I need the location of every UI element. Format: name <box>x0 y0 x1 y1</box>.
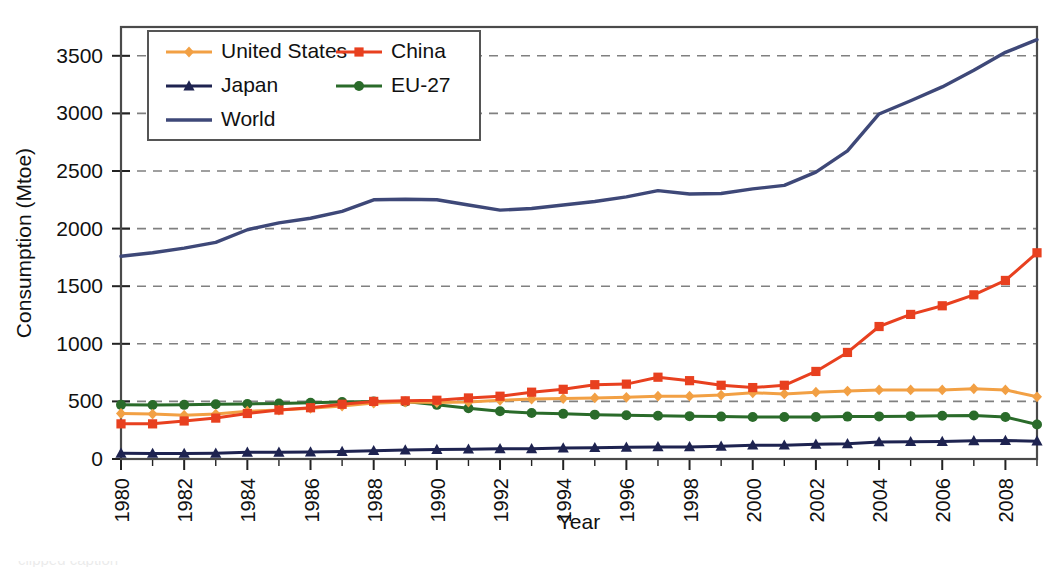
x-tick-label: 1996 <box>616 478 638 523</box>
data-marker <box>211 399 221 409</box>
data-marker <box>559 385 568 394</box>
x-tick-label: 1990 <box>427 478 449 523</box>
data-marker <box>716 412 726 422</box>
data-marker <box>874 411 884 421</box>
data-marker <box>937 411 947 421</box>
y-tick-label: 2500 <box>56 159 103 182</box>
y-tick-label: 1500 <box>56 274 103 297</box>
data-marker <box>779 412 789 422</box>
data-marker <box>653 373 662 382</box>
data-marker <box>811 367 820 376</box>
data-marker <box>338 400 347 409</box>
data-marker <box>653 411 663 421</box>
data-marker <box>843 348 852 357</box>
y-tick-label: 3500 <box>56 44 103 67</box>
data-marker <box>1001 276 1010 285</box>
legend-label: China <box>391 39 446 62</box>
chart-legend: United StatesChinaJapanEU-27World <box>148 31 480 140</box>
y-tick-label: 0 <box>91 447 103 470</box>
legend-label: EU-27 <box>391 73 451 96</box>
data-marker <box>369 397 378 406</box>
data-marker <box>1032 248 1041 257</box>
x-axis-title: Year <box>558 510 600 533</box>
data-marker <box>590 380 599 389</box>
data-marker <box>180 416 189 425</box>
data-marker <box>274 405 283 414</box>
data-marker <box>495 392 504 401</box>
data-marker <box>148 400 158 410</box>
data-marker <box>969 290 978 299</box>
data-marker <box>622 380 631 389</box>
y-axis-title: Consumption (Mtoe) <box>12 148 35 338</box>
data-marker <box>401 396 410 405</box>
x-tick-label: 1984 <box>237 478 259 523</box>
x-tick-label: 1998 <box>680 478 702 523</box>
data-marker <box>811 412 821 422</box>
clipped-caption-artifact: clipped caption <box>18 561 348 567</box>
data-marker <box>1032 419 1042 429</box>
data-marker <box>685 411 695 421</box>
data-marker <box>179 400 189 410</box>
clipped-caption-text: clipped caption <box>18 561 348 567</box>
data-marker <box>558 409 568 419</box>
data-marker <box>211 414 220 423</box>
x-tick-label: 1980 <box>111 478 133 523</box>
legend-swatch-marker <box>354 81 364 91</box>
data-marker <box>464 393 473 402</box>
consumption-line-chart: 0500100015002000250030003500198019821984… <box>0 0 1060 567</box>
legend-label: Japan <box>221 73 278 96</box>
data-marker <box>748 383 757 392</box>
data-marker <box>590 410 600 420</box>
data-marker <box>906 310 915 319</box>
y-tick-label: 2000 <box>56 217 103 240</box>
y-tick-label: 500 <box>68 389 103 412</box>
x-tick-label: 1988 <box>364 478 386 523</box>
data-marker <box>1000 412 1010 422</box>
x-tick-label: 2006 <box>932 478 954 523</box>
data-marker <box>527 388 536 397</box>
y-tick-label: 1000 <box>56 332 103 355</box>
x-tick-label: 2002 <box>806 478 828 523</box>
data-marker <box>685 376 694 385</box>
data-marker <box>495 406 505 416</box>
y-tick-label: 3000 <box>56 101 103 124</box>
data-marker <box>969 410 979 420</box>
x-tick-label: 2004 <box>869 478 891 523</box>
legend-label: World <box>221 107 275 130</box>
data-marker <box>906 411 916 421</box>
x-tick-label: 1986 <box>301 478 323 523</box>
data-marker <box>148 419 157 428</box>
data-marker <box>306 403 315 412</box>
data-marker <box>780 381 789 390</box>
x-tick-label: 1992 <box>490 478 512 523</box>
legend-swatch-marker <box>354 47 363 56</box>
data-marker <box>938 301 947 310</box>
data-marker <box>243 409 252 418</box>
legend-label: United States <box>221 39 347 62</box>
data-marker <box>621 410 631 420</box>
x-tick-label: 2008 <box>995 478 1017 523</box>
data-marker <box>874 322 883 331</box>
x-tick-label: 2000 <box>743 478 765 523</box>
chart-figure: 0500100015002000250030003500198019821984… <box>0 0 1060 567</box>
data-marker <box>717 381 726 390</box>
data-marker <box>527 408 537 418</box>
data-marker <box>116 419 125 428</box>
data-marker <box>748 412 758 422</box>
x-tick-label: 1982 <box>174 478 196 523</box>
data-marker <box>432 396 441 405</box>
data-marker <box>842 412 852 422</box>
